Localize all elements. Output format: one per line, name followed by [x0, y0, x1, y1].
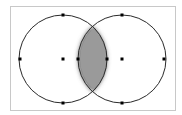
left-circle-bottom-point — [62, 102, 65, 105]
left-circle-top-point — [62, 14, 65, 17]
left-circle-center-point — [62, 58, 65, 61]
right-circle-left-point — [77, 58, 80, 61]
right-circle-bottom-point — [121, 102, 124, 105]
left-circle-right-point — [106, 58, 109, 61]
right-circle-top-point — [121, 14, 124, 17]
venn-diagram — [0, 0, 182, 115]
right-circle-right-point — [163, 58, 166, 61]
left-circle-left-point — [19, 58, 22, 61]
right-circle-center-point — [121, 58, 124, 61]
